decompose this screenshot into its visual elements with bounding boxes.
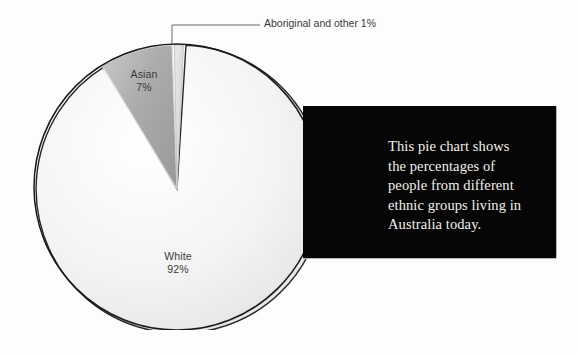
caption-line-4: ethnic groups living in bbox=[388, 196, 548, 216]
pie-svg bbox=[33, 42, 321, 330]
caption-line-2: the percentages of bbox=[388, 157, 548, 177]
pie-rim-shading bbox=[35, 45, 320, 330]
callout-leader-line bbox=[168, 18, 264, 50]
slice-label-asian-name: Asian bbox=[131, 68, 158, 80]
slice-label-white-name: White bbox=[164, 250, 191, 262]
slice-label-asian: Asian 7% bbox=[118, 68, 170, 93]
slice-label-asian-percent: 7% bbox=[118, 81, 170, 94]
caption-box: This pie chart shows the percentages of … bbox=[303, 106, 556, 258]
pie-chart bbox=[33, 42, 321, 330]
slice-label-aboriginal: Aboriginal and other 1% bbox=[256, 17, 384, 30]
caption-line-1: This pie chart shows bbox=[388, 137, 548, 157]
pie-chart-figure: Asian 7% White 92% Aboriginal and other … bbox=[0, 0, 580, 355]
slice-label-aboriginal-name: Aboriginal and other bbox=[264, 17, 358, 29]
caption-text: This pie chart shows the percentages of … bbox=[388, 137, 548, 235]
slice-label-white: White 92% bbox=[150, 250, 206, 275]
slice-label-white-percent: 92% bbox=[150, 263, 206, 276]
caption-line-5: Australia today. bbox=[388, 215, 548, 235]
caption-line-3: people from different bbox=[388, 176, 548, 196]
slice-label-aboriginal-percent: 1% bbox=[361, 17, 376, 29]
